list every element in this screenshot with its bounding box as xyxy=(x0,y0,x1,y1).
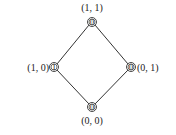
node-top-value: 0 xyxy=(90,18,94,27)
node-right: 0 xyxy=(127,63,136,72)
node-right-value: 0 xyxy=(129,63,133,72)
node-bottom-label: (0, 0) xyxy=(81,115,103,127)
node-top: 0 xyxy=(88,18,97,27)
lattice-diagram: 0 (1, 1) 1 (1, 0) 0 (0, 1) 0 (0, 0) xyxy=(0,0,176,135)
edge-top-right xyxy=(95,25,128,64)
node-bottom: 0 xyxy=(88,103,97,112)
node-top-label: (1, 1) xyxy=(81,2,103,14)
node-left-value: 1 xyxy=(52,63,56,72)
node-right-label: (0, 1) xyxy=(137,62,159,74)
node-bottom-value: 0 xyxy=(90,103,94,112)
edge-left-bottom xyxy=(57,70,89,104)
edge-right-bottom xyxy=(95,70,128,104)
node-left-label: (1, 0) xyxy=(27,62,49,74)
edges xyxy=(57,25,128,104)
node-left: 1 xyxy=(50,63,59,72)
edge-top-left xyxy=(57,25,89,64)
